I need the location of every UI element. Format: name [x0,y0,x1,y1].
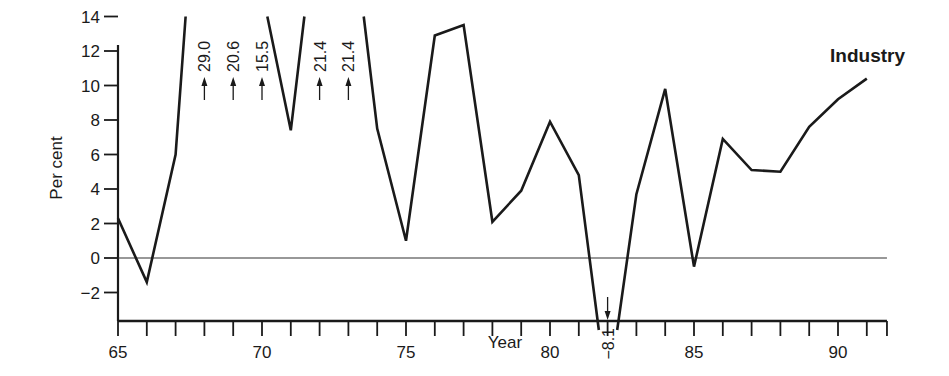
arrow-head-icon [201,77,207,86]
y-tick-label: 2 [91,215,100,234]
annotation-label: 20.6 [225,41,242,72]
x-axis-title: Year [488,333,523,352]
y-tick-label: 8 [91,111,100,130]
x-tick-label: 75 [397,343,416,362]
off-scale-annotations: 29.020.615.521.421.4−8.1 [196,41,616,360]
x-tick-label: 80 [541,343,560,362]
y-tick-label: 10 [81,77,100,96]
series-line-industry [118,17,186,283]
x-tick-label: 85 [685,343,704,362]
arrow-head-icon [259,77,265,86]
arrow-head-icon [230,77,236,86]
y-tick-label: 4 [91,180,100,199]
annotation-label: −8.1 [600,328,617,360]
chart-title: Industry [830,45,905,66]
series-line-industry [364,17,599,331]
y-tick-label: −2 [81,284,100,303]
x-tick-label: 70 [253,343,272,362]
annotation-label: 21.4 [312,41,329,72]
series-line-industry [267,17,304,131]
line-chart: −202468101214657075808590 29.020.615.521… [0,0,949,376]
arrow-head-icon [345,77,351,86]
y-tick-label: 14 [81,8,100,27]
y-tick-label: 12 [81,42,100,61]
arrow-head-icon [605,311,611,320]
arrow-head-icon [317,77,323,86]
y-tick-label: 0 [91,249,100,268]
series-line-industry [617,79,867,330]
x-tick-label: 90 [829,343,848,362]
y-tick-label: 6 [91,146,100,165]
y-axis-title: Per cent [47,136,66,200]
annotation-label: 21.4 [340,41,357,72]
annotation-label: 15.5 [254,41,271,72]
annotation-label: 29.0 [196,41,213,72]
x-tick-label: 65 [109,343,128,362]
